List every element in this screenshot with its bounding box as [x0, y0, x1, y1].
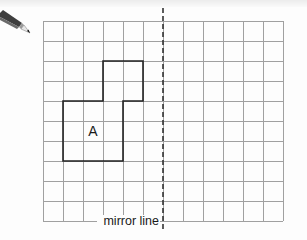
- reflection-diagram: A mirror line: [0, 0, 307, 240]
- shape-a-label: A: [88, 123, 98, 139]
- mirror-line-label: mirror line: [103, 214, 159, 228]
- worksheet-canvas: A mirror line: [0, 0, 307, 240]
- pencil-icon: [0, 10, 30, 33]
